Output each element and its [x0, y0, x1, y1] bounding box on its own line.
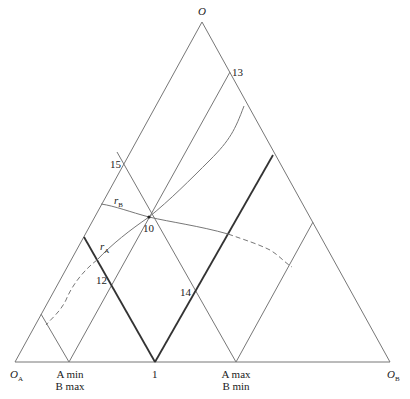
point-10-marker [147, 215, 150, 218]
point-10-label: 10 [143, 222, 154, 234]
curve-rB-dashed [228, 234, 292, 267]
outer-triangle [15, 22, 390, 362]
ternary-diagram: O OA OB A min B max 1 A max B min 13 15 … [0, 0, 410, 399]
diagram-canvas [0, 0, 410, 399]
point-12-label: 12 [96, 274, 107, 286]
a-max-b-min-label: A max B min [216, 368, 256, 392]
line-amax-to-15 [117, 152, 236, 362]
vertex-ob-label: OB [387, 368, 400, 385]
vertex-o-label: O [198, 5, 206, 17]
curve-rA-upper [149, 106, 244, 217]
vertex-oa-label: OA [10, 368, 23, 385]
point-15-label: 15 [110, 158, 121, 170]
point-1-label: 1 [152, 368, 158, 380]
a-min-b-max-label: A min B max [50, 368, 90, 392]
curve-rb-label: rB [114, 194, 123, 211]
line-amax-to-right [236, 222, 313, 362]
curve-ra-label: rA [100, 240, 109, 257]
thick-line-1-left [84, 237, 155, 362]
line-left-lower-to-amin [41, 314, 69, 362]
thick-line-1-right [155, 155, 273, 362]
point-14-label: 14 [180, 286, 191, 298]
point-13-label: 13 [232, 66, 243, 78]
